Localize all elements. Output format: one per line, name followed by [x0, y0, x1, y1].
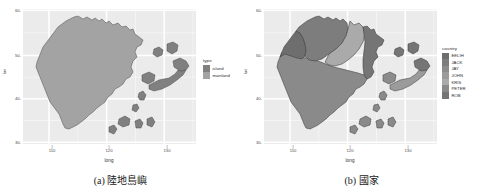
legend-label-jay: JAY: [451, 66, 459, 71]
legend-label-mainland: mainland: [212, 73, 229, 78]
legend-item-jack[interactable]: JACK: [442, 59, 466, 66]
map-panel-a: [23, 9, 196, 144]
y-tick-label-a-60: 60-: [8, 8, 21, 13]
y-axis-title-b: lat: [243, 69, 248, 74]
legend-swatch-peter: [442, 85, 449, 92]
plot-area-b: lat 60- 50- 40- 30-: [241, 0, 482, 168]
legend-title-a: type: [203, 58, 230, 63]
figure-panel-a: lat 60- 50- 40- 30-: [0, 0, 241, 196]
figure-caption-b: (b) 國家: [344, 172, 378, 187]
legend-item-island[interactable]: island: [203, 65, 230, 72]
legend-swatch-rob: [442, 92, 449, 99]
y-tick-label-b-60: 60-: [249, 8, 262, 13]
x-tick-label-b-130: |130: [398, 146, 418, 153]
legend-swatch-jay: [442, 66, 449, 73]
legend-item-john[interactable]: JOHN: [442, 72, 466, 79]
figure-row: lat 60- 50- 40- 30-: [0, 0, 482, 196]
x-axis-title-b: long: [340, 158, 360, 163]
legend-swatch-john: [442, 72, 449, 79]
y-tick-label-b-40: 40-: [249, 96, 262, 101]
legend-swatch-eelih: [442, 53, 449, 60]
legend-item-rob[interactable]: ROB: [442, 92, 466, 99]
legend-swatch-island: [203, 65, 210, 72]
legend-items-b: EELIH JACK JAY JOHN: [442, 53, 466, 99]
plot-area-a: lat 60- 50- 40- 30-: [0, 0, 241, 168]
legend-items-a: island mainland: [203, 65, 230, 80]
y-tick-label-b-50: 50-: [249, 53, 262, 58]
y-tick-label-b-30: 30-: [249, 140, 262, 145]
legend-item-kris[interactable]: KRIS: [442, 79, 466, 86]
legend-swatch-jack: [442, 59, 449, 66]
y-tick-label-a-30: 30-: [8, 140, 21, 145]
legend-item-eelih[interactable]: EELIH: [442, 53, 466, 60]
x-tick-label-a-120: |120: [99, 146, 119, 153]
legend-title-b: country: [442, 46, 466, 51]
figure-panel-b: lat 60- 50- 40- 30-: [241, 0, 482, 196]
x-axis-title-a: long: [99, 158, 119, 163]
legend-label-island: island: [212, 66, 223, 71]
legend-swatch-kris: [442, 79, 449, 86]
legend-b: country EELIH JACK JAY: [442, 46, 466, 99]
legend-label-kris: KRIS: [451, 80, 461, 85]
map-svg-a: [23, 9, 196, 144]
legend-label-peter: PETER: [451, 86, 465, 91]
legend-item-peter[interactable]: PETER: [442, 85, 466, 92]
x-tick-label-b-120: |120: [340, 146, 360, 153]
y-tick-label-a-50: 50-: [8, 53, 21, 58]
legend-label-eelih: EELIH: [451, 53, 463, 58]
legend-item-jay[interactable]: JAY: [442, 66, 466, 73]
legend-label-rob: ROB: [451, 93, 460, 98]
map-panel-b: [264, 9, 437, 144]
x-tick-label-a-110: |110: [42, 146, 62, 153]
y-tick-label-a-40: 40-: [8, 96, 21, 101]
legend-item-mainland[interactable]: mainland: [203, 72, 230, 79]
y-axis-title-a: lat: [2, 69, 7, 74]
legend-label-jack: JACK: [451, 60, 462, 65]
figure-caption-a: (a) 陸地島嶼: [94, 172, 148, 187]
map-svg-b: [264, 9, 437, 144]
x-tick-label-a-130: |130: [157, 146, 177, 153]
legend-a: type island mainland: [203, 58, 230, 79]
legend-swatch-mainland: [203, 72, 210, 79]
legend-label-john: JOHN: [451, 73, 463, 78]
x-tick-label-b-110: |110: [283, 146, 303, 153]
